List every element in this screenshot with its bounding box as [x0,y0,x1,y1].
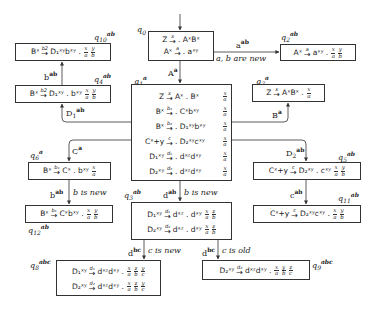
fraction: xa [92,165,96,177]
edge-label-q3-q9: dbc [202,246,215,258]
rule-rhs: Cˣ . bˣʸ [62,167,89,175]
rule-lhs: Cˣ+y [270,210,289,218]
fraction: xa [127,281,131,293]
state-box-q0[interactable]: Z x→ . AˣBˣ Aˣ a→ . aˣʸ [148,31,214,61]
rule-row: Z x→ . AˣBˣ [152,34,210,46]
rule-row: D₁ˣʸ d₁→ dˣᶻdˣʸ . xa zb yc [60,264,157,279]
edge-label-q1-q4: D1ab [66,106,84,119]
state-label-q9: q9abc [312,258,333,271]
fraction: xa [205,224,209,236]
state-label-q2: q2ab [281,30,298,43]
fraction: yb [341,165,345,177]
rule-rhs: D₁ˣʸbˣʸ . [50,48,81,56]
edge-label-q6-q12: bab [50,188,63,200]
fraction: yb [91,46,95,58]
state-label-q6: q6a [30,148,43,161]
rule-rhs: . AˣBˣ [178,36,200,44]
state-box-q6[interactable]: Bˣ b₁→ Cˣ . bˣʸ xa [28,162,111,180]
fraction: zc [289,265,293,277]
transition-arrow-icon: c→ [166,136,173,147]
transition-arrow-icon: x→ [273,87,280,98]
rule-row: Aˣ a→ . aˣʸ [152,46,210,58]
fraction: xa [334,165,338,177]
state-box-q7[interactable]: Z x→ AˣBˣ . xa [252,84,325,102]
rule-row: Z x→ AˣBˣ . xa [256,87,321,99]
state-box-q11[interactable]: Cˣ+y c→ D₂ˣʸcˣʸ . xa yb [253,205,361,223]
edge-label-q1-q6: Ca [72,144,82,156]
state-box-q1[interactable]: Z x→ Aˣ . Bˣ xa Bˣ b₁→ . Cˣbˣʸ xa Bˣ b₂→… [131,84,232,181]
transition-arrow-icon: a→ [304,47,311,58]
rule-lhs: Bˣ [40,210,48,218]
fraction: xa [87,208,91,220]
transition-arrow-icon: d₂→ [166,166,173,177]
state-box-q2[interactable]: Aˣ a→ aˣʸ . xa yb [280,44,356,61]
edge-label-q3-q8: dbc [128,246,141,258]
rule-row: Cˣ+y c→ D₂ˣʸcˣʸ . xa yb [257,208,357,220]
transition-arrow-icon: b₁→ [54,165,61,176]
rule-lhs: Bˣ [31,48,39,56]
state-box-q8[interactable]: D₁ˣʸ d₁→ dˣᶻdˣʸ . xa zb yc D₂ˣʸ d₂→ dˣᶻd… [56,260,161,296]
rule-lhs: Aˣ [294,49,302,57]
state-box-q10[interactable]: Bˣ b2→ D₁ˣʸbˣʸ . xa yb [15,43,111,61]
rule-row: Bˣ b₁→ . Cˣbˣʸ xa [136,104,227,119]
rule-row: D₂ˣʸ d₂→ dˣᶻdˣʸ . xa yb zc [206,263,306,278]
edge-label-q0-q2: aab [236,38,249,50]
rule-row: D₁ˣʸ d₁→ dˣᶻ . dˣʸ xa zb [135,207,228,222]
rule-lhs: Aˣ [164,48,172,56]
transition-arrow-icon: c→ [291,208,298,219]
fraction: xa [274,265,278,277]
fraction: yc [141,266,145,278]
rule-lhs: Z [162,36,167,44]
rule-row: D₂ˣʸ d₂→ . dˣᶻdˣʸ xa [136,164,227,179]
transition-arrow-icon: c→ [290,165,297,176]
transition-arrow-icon: x→ [166,91,173,102]
rule-row: Z x→ Aˣ . Bˣ xa [136,89,227,104]
fraction: yb [340,208,344,220]
transition-arrow-icon: d₁→ [166,151,173,162]
edge-label-q0-q1: Aa [168,66,178,78]
rule-row: D₂ˣʸ d₂→ dˣᶻdˣʸ . xa zb yc [60,279,157,294]
edge-note-q0-q2: a, b are new [216,54,266,63]
fraction: yb [338,47,342,59]
state-box-q5[interactable]: Cˣ+y c→ D₂ˣʸ . cˣʸ xa yb [253,162,361,180]
transition-arrow-icon: a→ [174,46,181,57]
rule-row: Cˣ+y c→ D₂ˣʸ . cˣʸ xa yb [257,165,357,177]
rule-rhs: aˣʸ . [313,49,329,57]
rule-rhs: AˣBˣ . [282,89,304,97]
transition-arrow-icon: b₁→ [51,208,58,219]
rule-rhs: D₁ˣʸ . bˣʸ [49,90,82,98]
state-box-q9[interactable]: D₂ˣʸ d₂→ dˣᶻdˣʸ . xa yb zc [202,260,310,280]
state-label-q10: q10ab [94,30,115,43]
rule-row: D₁ˣʸ d₁→ . dˣᶻdˣʸ xa [136,149,227,164]
rule-row: Bˣ b₁→ Cˣbˣʸ . xa yb [29,208,109,220]
rule-row: Aˣ a→ aˣʸ . xa yb [284,47,352,59]
fraction: xa [85,88,89,100]
transition-arrow-icon: b2→ [40,88,47,99]
fraction: zb [212,224,216,236]
rule-row: Bˣ b2→ D₁ˣʸ . bˣʸ xa yb [19,88,107,100]
edge-label-q1-q7: Ba [272,108,282,120]
edge-note-q1-q3: b is new [184,188,218,197]
fraction: xa [205,209,209,221]
state-label-q8: q8abc [30,258,51,271]
fraction: xa [223,166,227,178]
state-box-q12[interactable]: Bˣ b₁→ Cˣbˣʸ . xa yb [25,205,113,223]
fraction: xa [127,266,131,278]
rule-row: Cˣ+y c→ . D₂ˣʸcˣʸ xa [136,134,227,149]
rule-row: Bˣ b₂→ . D₁ˣʸbˣʸ xa [136,119,227,134]
transition-arrow-icon: d₁→ [164,209,171,220]
state-box-q4[interactable]: Bˣ b2→ D₁ˣʸ . bˣʸ xa yb [15,85,111,103]
state-label-q3: q3ab [124,188,141,201]
state-label-q0: q0 [137,25,146,36]
transition-arrow-icon: b₁→ [166,106,173,117]
transition-arrow-icon: x→ [169,34,176,45]
transition-arrow-icon: b2→ [42,46,49,57]
rule-lhs: Cˣ+y [269,167,288,175]
state-box-q3[interactable]: D₁ˣʸ d₁→ dˣᶻ . dˣʸ xa zb D₂ˣʸ d₂→ dˣᶻ . … [131,202,232,240]
fraction: zb [134,266,138,278]
rule-row: D₂ˣʸ d₂→ dˣᶻ . dˣʸ xa zb [135,222,228,237]
fraction: xa [223,136,227,148]
transition-arrow-icon: b₂→ [166,121,173,132]
fraction: xa [223,91,227,103]
edge-note-q6-q12: b is new [73,188,107,197]
